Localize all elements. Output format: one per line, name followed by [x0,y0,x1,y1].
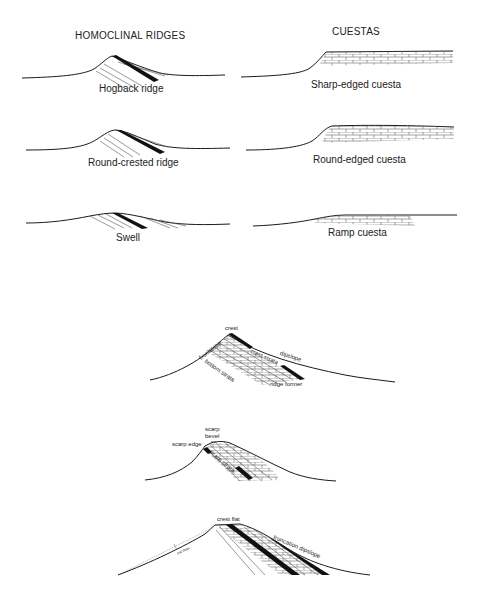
label-round-crested-ridge: Round-crested ridge [88,157,179,168]
label-crest: crest [225,325,238,331]
header-homoclinal-ridges: HOMOCLINAL RIDGES [75,30,185,41]
landform-diagram [0,0,483,613]
label-scarp-edge: scarp edge [172,441,202,447]
label-crest-flat: crest flat [217,516,240,522]
ramp-cuesta-profile [253,215,457,226]
swell-profile [26,213,230,229]
round-edged-cuesta-profile [246,125,454,150]
detail-truncation-anatomy [118,524,370,575]
label-hogback-ridge: Hogback ridge [99,83,163,94]
header-cuestas: CUESTAS [332,26,380,37]
sharp-edged-cuesta-profile [241,51,453,77]
label-sharp-edged-cuesta: Sharp-edged cuesta [311,79,401,90]
detail-scarp-anatomy [145,442,336,482]
label-scarp-bevel-1: scarp [205,426,220,432]
label-ramp-cuesta: Ramp cuesta [328,227,387,238]
label-ridge-former: ridge former [270,381,302,387]
label-round-edged-cuesta: Round-edged cuesta [313,154,406,165]
round-crested-ridge-profile [26,130,230,157]
label-swell: Swell [116,232,140,243]
label-scarp-bevel-2: bevel [205,433,219,439]
